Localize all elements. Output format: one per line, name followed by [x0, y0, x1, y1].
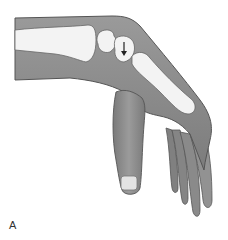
panel-label: A [9, 220, 16, 231]
hand-illustration [0, 0, 228, 240]
thumbnail [121, 176, 137, 190]
scaphoid-bone [97, 30, 116, 53]
figure-canvas: A [0, 0, 228, 240]
